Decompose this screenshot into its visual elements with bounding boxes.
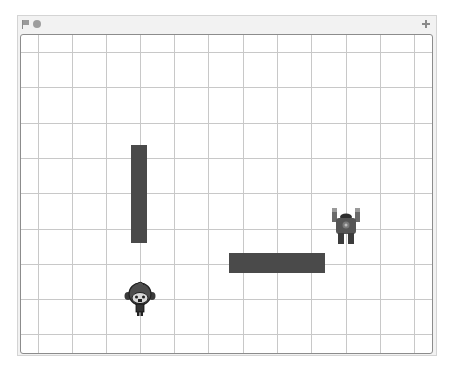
grid-line-vertical bbox=[277, 35, 278, 353]
grid-line-vertical bbox=[243, 35, 244, 353]
vertical-wall bbox=[131, 145, 147, 243]
grid-line-horizontal bbox=[21, 229, 432, 230]
grid-line-horizontal bbox=[21, 123, 432, 124]
game-stage[interactable] bbox=[20, 34, 433, 354]
horizontal-wall bbox=[229, 253, 325, 273]
monkey-sprite[interactable] bbox=[124, 281, 156, 321]
grid-line-horizontal bbox=[21, 264, 432, 265]
grid-line-vertical bbox=[346, 35, 347, 353]
grid-line-horizontal bbox=[21, 52, 432, 53]
grid-line-vertical bbox=[106, 35, 107, 353]
grid-line-vertical bbox=[38, 35, 39, 353]
stop-button[interactable] bbox=[33, 20, 41, 28]
grid-line-horizontal bbox=[21, 87, 432, 88]
grid-line-vertical bbox=[208, 35, 209, 353]
grid-line-horizontal bbox=[21, 193, 432, 194]
grid-line-horizontal bbox=[21, 158, 432, 159]
grid-line-vertical bbox=[72, 35, 73, 353]
grid-line-horizontal bbox=[21, 334, 432, 335]
grid-line-vertical bbox=[414, 35, 415, 353]
green-flag-button[interactable] bbox=[22, 20, 31, 29]
robot-sprite[interactable] bbox=[331, 208, 361, 249]
fullscreen-button[interactable] bbox=[422, 20, 430, 28]
grid-line-horizontal bbox=[21, 299, 432, 300]
grid-line-vertical bbox=[380, 35, 381, 353]
grid-line-vertical bbox=[174, 35, 175, 353]
stage-header bbox=[18, 16, 436, 34]
grid-line-vertical bbox=[311, 35, 312, 353]
